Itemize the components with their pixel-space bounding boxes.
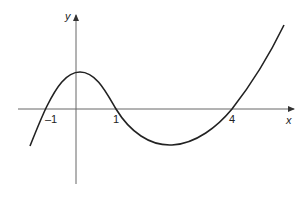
- cubic-curve: [30, 25, 284, 146]
- function-graph: y x –1 1 4: [0, 0, 306, 199]
- tick-label-minus-1: –1: [45, 113, 57, 125]
- tick-label-1: 1: [113, 113, 119, 125]
- tick-label-4: 4: [229, 113, 235, 125]
- y-axis-label: y: [64, 10, 72, 22]
- x-axis-label: x: [285, 114, 292, 126]
